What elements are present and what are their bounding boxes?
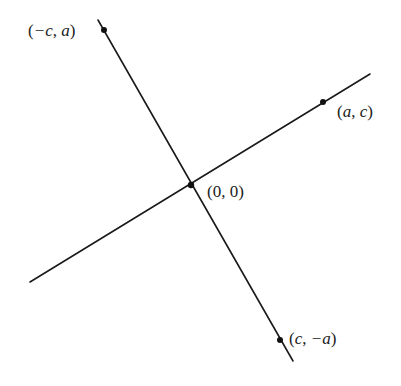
point-neg-c-a [101,27,107,33]
diagram-canvas [0,0,401,386]
label-origin: (0, 0) [207,183,244,200]
paren-close: ) [367,102,373,121]
label-c-neg-a: (c, −a) [289,330,336,347]
coord-x: 0 [213,182,222,201]
paren-close: ) [331,329,337,348]
perpendicular-line [98,20,293,361]
coord-x: a [343,102,352,121]
separator: , [302,329,311,348]
paren-close: ) [70,21,76,40]
coord-y: −a [311,329,331,348]
separator: , [53,21,62,40]
coord-y: a [61,21,70,40]
point-origin [188,182,194,188]
line-through-a-c [30,74,370,282]
point-c-neg-a [277,337,283,343]
coord-x: −c [34,21,53,40]
label-a-c: (a, c) [337,103,373,120]
label-neg-c-a: (−c, a) [28,22,75,39]
separator: , [221,182,230,201]
separator: , [351,102,360,121]
coord-y: 0 [230,182,239,201]
paren-close: ) [238,182,244,201]
point-a-c [320,99,326,105]
